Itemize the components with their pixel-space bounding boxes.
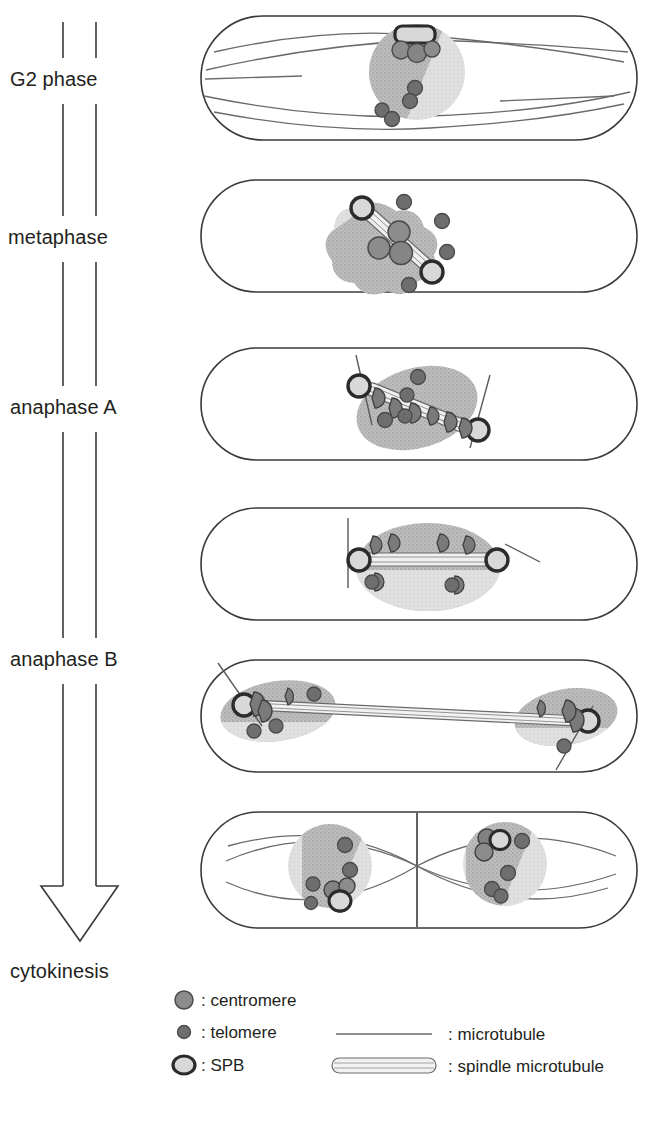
cell-cytokinesis bbox=[201, 812, 637, 928]
phase-label-g2: G2 phase bbox=[10, 68, 98, 91]
legend-centromere-label: : centromere bbox=[201, 991, 296, 1010]
cell-metaphase bbox=[201, 180, 637, 310]
legend-spindle-microtubule-label: : spindle microtubule bbox=[448, 1057, 604, 1076]
spb bbox=[421, 261, 443, 283]
spb bbox=[348, 549, 370, 571]
spindle-microtubule bbox=[362, 553, 494, 566]
phase-label-metaphase: metaphase bbox=[8, 226, 108, 249]
cell-cycle-diagram: : centromere : telomere : SPB : microtub… bbox=[0, 0, 646, 1123]
spb bbox=[348, 375, 370, 397]
legend-spb-icon bbox=[173, 1056, 195, 1074]
phase-label-anaphase-a: anaphase A bbox=[10, 396, 117, 419]
cell-anaphase-a bbox=[201, 348, 637, 460]
mitotic-progression-arrow bbox=[41, 22, 118, 941]
arrow-head-icon bbox=[41, 886, 118, 941]
cell-g2 bbox=[201, 16, 637, 140]
spb bbox=[490, 831, 510, 850]
legend-spb-label: : SPB bbox=[201, 1056, 244, 1075]
legend-microtubule-label: : microtubule bbox=[448, 1025, 545, 1044]
spb bbox=[486, 549, 508, 571]
phase-label-anaphase-b: anaphase B bbox=[10, 648, 118, 671]
spb bbox=[351, 197, 373, 219]
legend-centromere-icon bbox=[175, 991, 193, 1009]
cell-anaphase-b bbox=[201, 660, 637, 772]
phase-label-cytokinesis: cytokinesis bbox=[10, 960, 109, 983]
legend-telomere-label: : telomere bbox=[201, 1023, 277, 1042]
cell-anaphase-a-late bbox=[201, 508, 637, 620]
legend-spindle-microtubule-icon bbox=[332, 1058, 436, 1073]
spb bbox=[329, 891, 351, 911]
legend: : centromere : telomere : SPB : microtub… bbox=[173, 991, 604, 1076]
cell-wall bbox=[201, 812, 637, 928]
legend-telomere-icon bbox=[178, 1026, 191, 1039]
